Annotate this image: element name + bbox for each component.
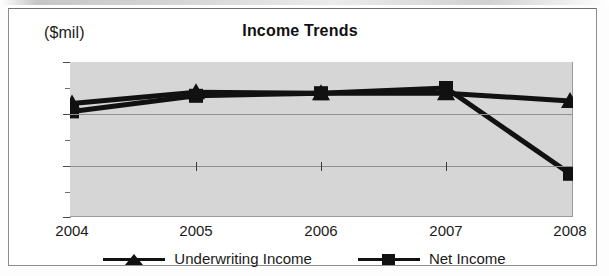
- income-trends-chart: ($mil) Income Trends 200 100 0 -100: [0, 0, 609, 276]
- net-income-marker-2008: [563, 167, 573, 181]
- y-tick-mark-0: [63, 166, 70, 167]
- x-tick-label-2006: 2006: [286, 222, 356, 239]
- x-tick-mark-2007: [446, 162, 447, 171]
- x-tick-label-2008: 2008: [535, 222, 605, 239]
- y-tick-mark-200: [63, 62, 70, 63]
- series-plot-svg: [70, 62, 573, 217]
- legend-label-underwriting-income: Underwriting Income: [174, 250, 312, 267]
- chart-title: Income Trends: [200, 22, 400, 40]
- gridline-neg100: [70, 216, 572, 217]
- gridline-100: [70, 114, 572, 115]
- x-tick-mark-2006: [321, 162, 322, 171]
- chart-legend: Underwriting Income Net Income: [0, 250, 609, 267]
- legend-label-net-income: Net Income: [429, 250, 506, 267]
- y-tick-mark-100: [63, 114, 70, 115]
- plot-area: [70, 62, 573, 217]
- x-tick-mark-2005: [196, 162, 197, 171]
- square-marker-icon: [358, 252, 420, 266]
- net-income-line: [72, 88, 570, 174]
- legend-item-net-income: Net Income: [358, 250, 506, 267]
- triangle-marker-icon: [103, 252, 165, 266]
- y-axis-unit-label: ($mil): [44, 24, 85, 42]
- x-tick-label-2007: 2007: [411, 222, 481, 239]
- y-tick-mark-neg100: [63, 217, 70, 218]
- x-tick-label-2004: 2004: [37, 222, 107, 239]
- x-tick-label-2005: 2005: [161, 222, 231, 239]
- legend-item-underwriting-income: Underwriting Income: [103, 250, 312, 267]
